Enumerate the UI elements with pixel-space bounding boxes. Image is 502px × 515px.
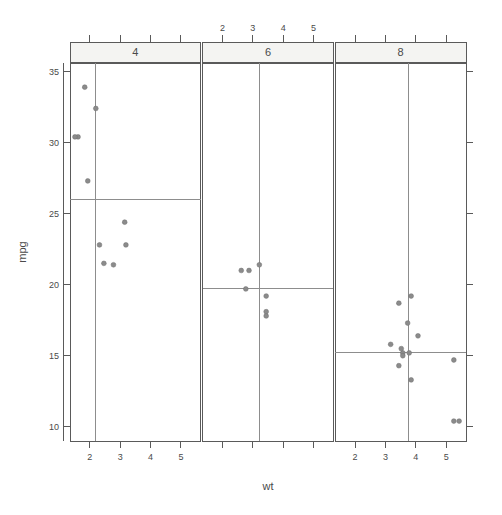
x-tick-label-top: 5 bbox=[311, 23, 316, 33]
data-point bbox=[409, 377, 414, 382]
data-point bbox=[451, 419, 456, 424]
strip-label-8: 8 bbox=[398, 46, 404, 58]
data-point bbox=[416, 333, 421, 338]
y-tick-label: 25 bbox=[49, 209, 59, 219]
x-tick-label-bottom: 5 bbox=[444, 452, 449, 462]
data-point bbox=[243, 287, 248, 292]
data-point bbox=[264, 314, 269, 319]
x-tick-label-bottom: 2 bbox=[87, 452, 92, 462]
y-tick-label: 35 bbox=[49, 67, 59, 77]
data-point bbox=[73, 134, 78, 139]
data-point bbox=[409, 294, 414, 299]
data-point bbox=[122, 220, 127, 225]
data-point bbox=[396, 301, 401, 306]
panel-border-4 bbox=[70, 63, 201, 441]
x-axis-title: wt bbox=[262, 480, 274, 492]
data-point bbox=[82, 85, 87, 90]
data-point bbox=[388, 342, 393, 347]
y-tick-label: 15 bbox=[49, 351, 59, 361]
x-tick-label-bottom: 5 bbox=[178, 452, 183, 462]
data-point bbox=[124, 242, 129, 247]
data-point bbox=[101, 261, 106, 266]
data-point bbox=[111, 262, 116, 267]
data-point bbox=[257, 262, 262, 267]
data-point bbox=[97, 242, 102, 247]
panel-border-6 bbox=[203, 63, 334, 441]
data-point bbox=[247, 268, 252, 273]
x-tick-label-bottom: 3 bbox=[383, 452, 388, 462]
strip-label-6: 6 bbox=[265, 46, 271, 58]
x-tick-label-bottom: 2 bbox=[353, 452, 358, 462]
x-tick-label-bottom: 4 bbox=[413, 452, 418, 462]
data-point bbox=[457, 419, 462, 424]
scatter-plot-svg: 101520253035423456234582345wtmpg bbox=[0, 0, 502, 515]
panel-border-8 bbox=[335, 63, 466, 441]
data-point bbox=[239, 268, 244, 273]
y-axis-title: mpg bbox=[16, 241, 28, 262]
data-point bbox=[407, 350, 412, 355]
data-point bbox=[399, 346, 404, 351]
x-tick-label-bottom: 4 bbox=[148, 452, 153, 462]
data-point bbox=[93, 106, 98, 111]
y-tick-label: 20 bbox=[49, 280, 59, 290]
x-tick-label-bottom: 3 bbox=[118, 452, 123, 462]
strip-label-4: 4 bbox=[132, 46, 138, 58]
x-tick-label-top: 3 bbox=[250, 23, 255, 33]
data-point bbox=[400, 353, 405, 358]
x-tick-label-top: 2 bbox=[220, 23, 225, 33]
y-tick-label: 30 bbox=[49, 138, 59, 148]
data-point bbox=[264, 294, 269, 299]
data-point bbox=[451, 358, 456, 363]
y-tick-label: 10 bbox=[49, 422, 59, 432]
data-point bbox=[85, 179, 90, 184]
coplot-figure: 101520253035423456234582345wtmpg bbox=[0, 0, 502, 515]
x-tick-label-top: 4 bbox=[281, 23, 286, 33]
data-point bbox=[405, 321, 410, 326]
data-point bbox=[396, 363, 401, 368]
